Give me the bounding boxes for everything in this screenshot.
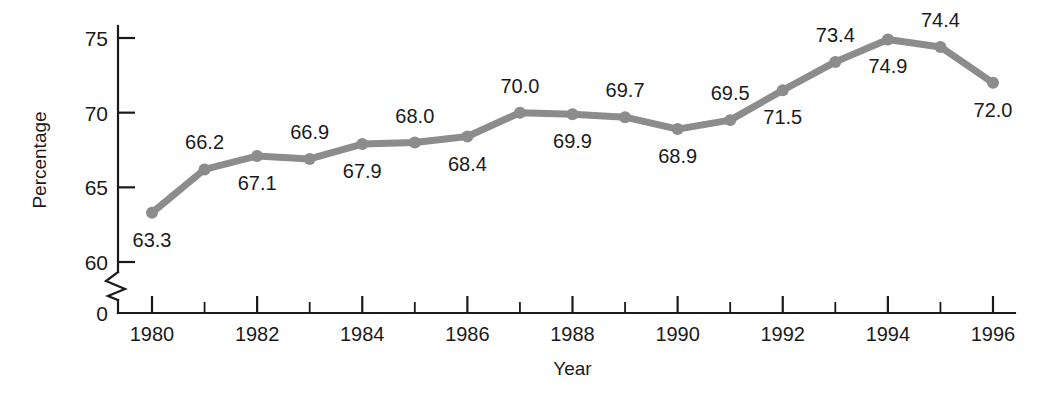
data-point-marker [356,138,368,150]
y-tick-label: 60 [85,251,108,274]
data-point-label: 71.5 [763,106,802,128]
x-tick-label: 1996 [971,323,1016,345]
x-tick-label: 1988 [550,323,595,345]
data-point-label: 68.9 [658,145,697,167]
x-tick-label: 1984 [340,323,385,345]
data-point-label: 74.9 [868,55,907,77]
x-tick-label: 1986 [445,323,490,345]
data-point-label: 66.2 [185,131,224,153]
data-point-label: 67.9 [343,160,382,182]
data-point-label: 70.0 [500,75,539,97]
data-point-marker [409,137,421,149]
data-point-marker [619,111,631,123]
data-point-marker [934,41,946,53]
x-tick-label: 1980 [130,323,175,345]
data-point-marker [199,163,211,175]
y-axis-zero-label: 0 [96,302,108,325]
y-axis-title: Percentage [29,111,50,208]
data-point-marker [514,107,526,119]
y-tick-label: 75 [85,27,108,50]
x-tick-label: 1994 [866,323,911,345]
data-point-marker [567,108,579,120]
data-point-marker [146,207,158,219]
data-point-label: 63.3 [133,229,172,251]
data-point-label: 69.7 [606,79,645,101]
data-point-label: 73.4 [816,24,855,46]
x-tick-label: 1990 [655,323,700,345]
x-axis-title: Year [553,358,592,379]
series-line [152,39,993,212]
data-point-label: 69.9 [553,130,592,152]
line-chart: 606570750Percentage198019821984198619881… [0,0,1063,393]
data-point-marker [777,84,789,96]
data-point-label: 68.4 [448,153,487,175]
data-point-marker [672,123,684,135]
chart-canvas: 606570750Percentage198019821984198619881… [0,0,1063,393]
x-tick-label: 1982 [235,323,280,345]
y-axis-break-zigzag [106,272,125,300]
y-tick-label: 65 [85,176,108,199]
data-point-label: 69.5 [711,82,750,104]
data-point-label: 67.1 [238,172,277,194]
data-point-label: 74.4 [921,9,960,31]
y-tick-label: 70 [85,102,108,125]
data-point-marker [829,56,841,68]
data-point-marker [987,77,999,89]
data-point-marker [304,153,316,165]
data-point-marker [724,114,736,126]
data-point-marker [882,33,894,45]
data-point-label: 68.0 [395,105,434,127]
data-point-label: 66.9 [290,121,329,143]
x-tick-label: 1992 [761,323,806,345]
data-point-label: 72.0 [974,99,1013,121]
data-point-marker [251,150,263,162]
data-point-marker [461,131,473,143]
